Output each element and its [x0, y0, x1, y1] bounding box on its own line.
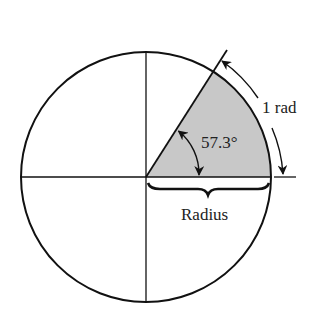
arc-length-arrow-lower — [272, 128, 283, 174]
radius-label: Radius — [181, 205, 228, 224]
radian-diagram: 1 rad 57.3° Radius — [0, 0, 318, 325]
shaded-sector — [146, 72, 271, 177]
radius-brace — [148, 183, 269, 195]
arc-length-label: 1 rad — [262, 98, 297, 117]
angle-label: 57.3° — [201, 133, 238, 152]
